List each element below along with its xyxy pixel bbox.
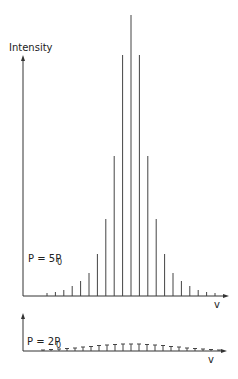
bottom-chart: v P = 2P 0 [21, 313, 227, 365]
bottom-x-axis-label: v [208, 354, 214, 365]
bottom-y-axis-arrow-icon [21, 313, 25, 319]
top-chart: Intensity v P = 5P 0 [9, 15, 229, 310]
spectrum-figure: Intensity v P = 5P 0 v P = 2P 0 [0, 0, 238, 379]
top-y-axis-label: Intensity [9, 42, 53, 53]
bottom-spectral-lines [41, 344, 221, 351]
top-x-axis-label: v [214, 299, 220, 310]
bottom-x-axis-arrow-icon [221, 349, 227, 353]
top-annotation-sub: 0 [57, 258, 62, 267]
top-spectral-lines [47, 15, 215, 296]
top-y-axis-arrow-icon [21, 55, 25, 61]
top-x-axis-arrow-icon [223, 294, 229, 298]
